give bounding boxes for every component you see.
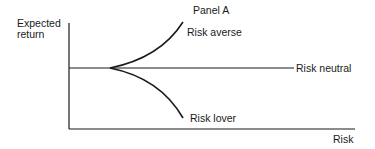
y-axis-label-line2: return — [17, 29, 61, 40]
risk-averse-curve — [110, 22, 183, 68]
panel-title: Panel A — [193, 5, 229, 16]
x-axis-label: Risk — [333, 134, 353, 145]
risk-neutral-label: Risk neutral — [296, 63, 351, 74]
diagram-panel-a: Expected return Panel A Risk averse Risk… — [0, 0, 375, 149]
risk-averse-label: Risk averse — [187, 27, 242, 38]
risk-lover-curve — [110, 68, 183, 118]
risk-lover-label: Risk lover — [190, 113, 236, 124]
y-axis-label: Expected return — [17, 18, 61, 40]
